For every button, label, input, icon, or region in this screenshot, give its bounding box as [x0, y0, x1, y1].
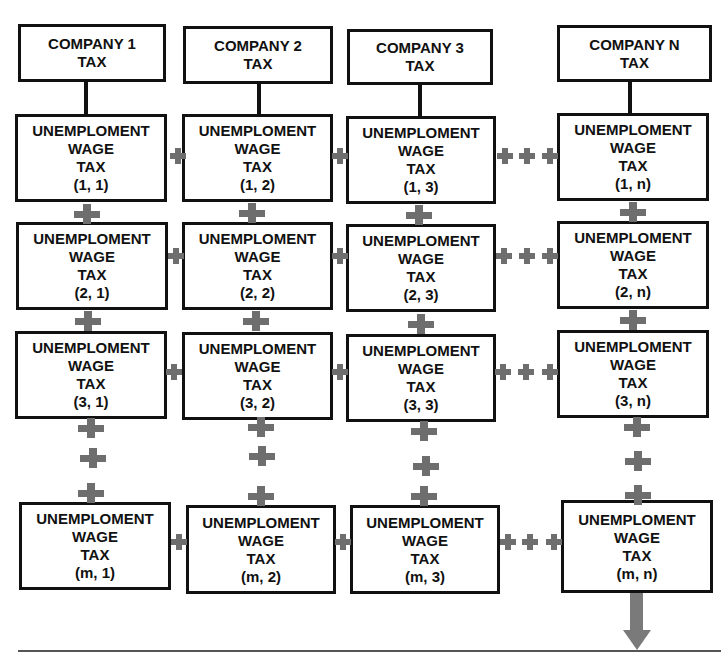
plus-icon [519, 148, 535, 164]
cell-index: (2, n) [615, 283, 651, 301]
cell-label-line3: TAX [411, 550, 440, 568]
tax-label: TAX [244, 55, 273, 73]
plus-icon [500, 534, 516, 550]
plus-icon [542, 248, 558, 264]
cell-label-line3: TAX [619, 374, 648, 392]
cell-index: (1, n) [615, 175, 651, 193]
cell-label-line1: UNEMPLOMENT [202, 514, 320, 532]
plus-icon [239, 203, 265, 223]
tax-label: TAX [620, 54, 649, 72]
plus-icon [335, 534, 351, 550]
cell-index: (3, 3) [403, 396, 438, 414]
cell-2-1: UNEMPLOMENT WAGE TAX (2, 1) [16, 222, 168, 310]
cell-label-line2: WAGE [398, 142, 444, 160]
cell-label-line2: WAGE [398, 250, 444, 268]
cell-label-line2: WAGE [68, 140, 114, 158]
cell-label-line3: TAX [619, 265, 648, 283]
company-n-connector [628, 82, 632, 114]
plus-icon [542, 148, 558, 164]
plus-icon [170, 148, 186, 164]
cell-label-line1: UNEMPLOMENT [32, 122, 150, 140]
cell-3-n: UNEMPLOMENT WAGE TAX (3, n) [557, 330, 709, 418]
cell-label-line1: UNEMPLOMENT [362, 124, 480, 142]
cell-label-line1: UNEMPLOMENT [199, 230, 317, 248]
cell-label-line1: UNEMPLOMENT [574, 229, 692, 247]
plus-icon [75, 311, 101, 331]
cell-index: (2, 2) [240, 284, 275, 302]
plus-icon [168, 248, 184, 264]
company-2-tax-box: COMPANY 2 TAX [183, 26, 333, 84]
plus-icon [411, 421, 437, 441]
plus-icon [249, 446, 275, 466]
plus-icon [248, 417, 274, 437]
plus-icon [542, 364, 558, 380]
cell-index: (1, 1) [73, 176, 108, 194]
cell-m-1: UNEMPLOMENT WAGE TAX (m, 1) [19, 502, 171, 590]
plus-icon [78, 483, 104, 503]
cell-3-1: UNEMPLOMENT WAGE TAX (3, 1) [15, 331, 167, 419]
cell-label-line3: TAX [243, 158, 272, 176]
cell-label-line1: UNEMPLOMENT [32, 339, 150, 357]
plus-icon [332, 364, 348, 380]
cell-index: (2, 3) [403, 286, 438, 304]
plus-icon [248, 486, 274, 506]
cell-2-2: UNEMPLOMENT WAGE TAX (2, 2) [182, 222, 333, 310]
company-1-connector [84, 82, 88, 114]
cell-2-n: UNEMPLOMENT WAGE TAX (2, n) [557, 221, 709, 309]
cell-label-line3: TAX [623, 547, 652, 565]
cell-label-line3: TAX [407, 378, 436, 396]
cell-label-line1: UNEMPLOMENT [33, 230, 151, 248]
cell-label-line1: UNEMPLOMENT [574, 338, 692, 356]
cell-index: (3, 1) [73, 393, 108, 411]
cell-m-n: UNEMPLOMENT WAGE TAX (m, n) [561, 500, 713, 593]
cell-3-2: UNEMPLOMENT WAGE TAX (3, 2) [182, 332, 333, 420]
company-1-tax-box: COMPANY 1 TAX [18, 24, 166, 82]
cell-label-line1: UNEMPLOMENT [199, 340, 317, 358]
cell-1-2: UNEMPLOMENT WAGE TAX (1, 2) [182, 114, 333, 202]
cell-label-line1: UNEMPLOMENT [362, 232, 480, 250]
cell-1-3: UNEMPLOMENT WAGE TAX (1, 3) [346, 116, 496, 204]
cell-label-line1: UNEMPLOMENT [199, 122, 317, 140]
down-arrow-icon [623, 630, 651, 650]
company-label: COMPANY N [589, 36, 679, 54]
cell-label-line3: TAX [78, 266, 107, 284]
plus-icon [243, 311, 269, 331]
cell-m-2: UNEMPLOMENT WAGE TAX (m, 2) [186, 505, 336, 594]
plus-icon [74, 204, 100, 224]
cell-label-line3: TAX [247, 550, 276, 568]
plus-icon [171, 534, 187, 550]
cell-label-line3: TAX [77, 158, 106, 176]
cell-label-line3: TAX [619, 157, 648, 175]
cell-label-line1: UNEMPLOMENT [574, 121, 692, 139]
cell-label-line2: WAGE [235, 248, 281, 266]
cell-index: (m, n) [617, 565, 658, 583]
plus-icon [519, 248, 535, 264]
plus-icon [546, 534, 562, 550]
plus-icon [497, 148, 513, 164]
cell-2-3: UNEMPLOMENT WAGE TAX (2, 3) [346, 224, 496, 312]
cell-index: (3, 2) [240, 394, 275, 412]
plus-icon [518, 364, 534, 380]
plus-icon [332, 248, 348, 264]
plus-icon [496, 248, 512, 264]
tax-label: TAX [78, 53, 107, 71]
cell-label-line3: TAX [407, 160, 436, 178]
cell-label-line1: UNEMPLOMENT [578, 511, 696, 529]
cell-label-line1: UNEMPLOMENT [36, 510, 154, 528]
cell-1-1: UNEMPLOMENT WAGE TAX (1, 1) [15, 114, 167, 202]
cell-index: (1, 3) [403, 178, 438, 196]
cell-index: (1, 2) [240, 176, 275, 194]
plus-icon [78, 418, 104, 438]
cell-label-line2: WAGE [68, 357, 114, 375]
total-baseline [18, 650, 721, 652]
cell-m-3: UNEMPLOMENT WAGE TAX (m, 3) [350, 505, 500, 594]
plus-icon [620, 310, 646, 330]
plus-icon [495, 364, 511, 380]
cell-index: (m, 2) [241, 568, 281, 586]
plus-icon [522, 534, 538, 550]
plus-icon [166, 364, 182, 380]
company-label: COMPANY 3 [376, 39, 464, 57]
cell-label-line2: WAGE [72, 528, 118, 546]
cell-label-line3: TAX [407, 268, 436, 286]
cell-label-line3: TAX [81, 546, 110, 564]
